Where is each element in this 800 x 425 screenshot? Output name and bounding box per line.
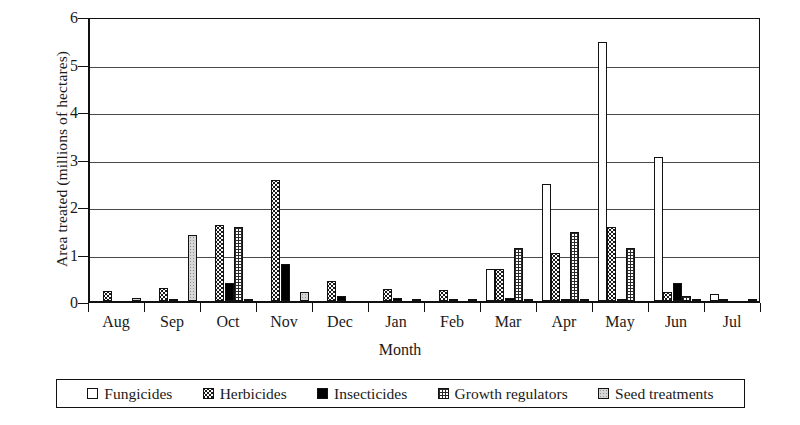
legend-item[interactable]: Insecticides [317, 386, 407, 402]
legend-item[interactable]: Fungicides [87, 386, 172, 402]
bar [337, 296, 346, 301]
bar [439, 290, 448, 301]
legend-swatch-icon [598, 388, 609, 399]
x-tick-mark [480, 303, 481, 312]
bar-series-container [90, 19, 759, 301]
bar-group [314, 19, 370, 301]
bar [468, 299, 477, 301]
bar [271, 180, 280, 301]
bar [570, 232, 579, 301]
bar [663, 292, 672, 302]
x-tick-label: May [590, 313, 650, 331]
bar [486, 269, 495, 301]
y-tick-label: 3 [38, 153, 78, 169]
x-tick-mark [424, 303, 425, 312]
bar [542, 184, 551, 301]
bar [281, 264, 290, 301]
bar [551, 253, 560, 301]
bar [524, 299, 533, 301]
legend-item[interactable]: Seed treatments [598, 386, 714, 402]
bar [495, 269, 504, 301]
y-tick-mark [78, 256, 88, 257]
chart-legend: FungicidesHerbicidesInsecticidesGrowth r… [56, 379, 745, 408]
bar [598, 42, 607, 301]
bar-group [426, 19, 482, 301]
bar [561, 299, 570, 301]
y-tick-mark [78, 18, 88, 19]
bar [215, 225, 224, 301]
x-tick-label: Oct [198, 313, 258, 331]
y-tick-label: 6 [38, 10, 78, 26]
bar [327, 281, 336, 301]
bar [692, 299, 701, 301]
x-tick-mark [144, 303, 145, 312]
bar-group [146, 19, 202, 301]
x-tick-label: Jun [646, 313, 706, 331]
bar [617, 299, 626, 301]
bar [188, 235, 197, 302]
x-tick-mark [200, 303, 201, 312]
bar-group [650, 19, 706, 301]
bar [159, 288, 168, 301]
bar [514, 248, 523, 301]
y-tick-label: 5 [38, 58, 78, 74]
x-tick-mark [648, 303, 649, 312]
x-axis-title: Month [0, 341, 800, 359]
x-tick-label: Aug [86, 313, 146, 331]
legend-label: Growth regulators [455, 386, 568, 402]
y-tick-mark [78, 161, 88, 162]
x-tick-label: Jan [366, 313, 426, 331]
bar-group [90, 19, 146, 301]
bar-group [258, 19, 314, 301]
bar [626, 248, 635, 301]
legend-swatch-icon [87, 388, 98, 399]
bar [719, 299, 728, 301]
legend-swatch-icon [317, 388, 328, 399]
y-tick-label: 0 [38, 295, 78, 311]
y-tick-mark [78, 303, 88, 304]
y-tick-mark [78, 66, 88, 67]
bar [505, 298, 514, 301]
bar [234, 227, 243, 301]
bar [383, 289, 392, 301]
bar [225, 283, 234, 301]
bar-group [538, 19, 594, 301]
bar [682, 296, 691, 301]
bar-group [706, 19, 762, 301]
bar [607, 227, 616, 301]
bar [103, 291, 112, 301]
bar [449, 299, 458, 301]
y-tick-mark [78, 113, 88, 114]
x-tick-label: Mar [478, 313, 538, 331]
x-tick-label: Feb [422, 313, 482, 331]
x-tick-label: Apr [534, 313, 594, 331]
x-tick-label: Nov [254, 313, 314, 331]
x-tick-mark [704, 303, 705, 312]
bar [244, 299, 253, 301]
legend-item[interactable]: Growth regulators [438, 386, 568, 402]
bar [748, 299, 757, 301]
legend-swatch-icon [203, 388, 214, 399]
x-tick-mark [368, 303, 369, 312]
x-tick-label: Sep [142, 313, 202, 331]
bar [132, 298, 141, 301]
y-tick-label: 2 [38, 200, 78, 216]
legend-label: Seed treatments [615, 386, 714, 402]
x-tick-mark [312, 303, 313, 312]
legend-label: Fungicides [104, 386, 172, 402]
x-tick-label: Dec [310, 313, 370, 331]
x-tick-mark [88, 303, 89, 312]
legend-label: Herbicides [220, 386, 287, 402]
bar [169, 299, 178, 301]
plot-area [88, 18, 760, 303]
bar-group [202, 19, 258, 301]
legend-swatch-icon [438, 388, 449, 399]
bar [673, 283, 682, 301]
bar-group [370, 19, 426, 301]
x-tick-label: Jul [702, 313, 762, 331]
bar [393, 298, 402, 301]
bar-group [482, 19, 538, 301]
x-tick-mark [592, 303, 593, 312]
pesticide-usage-bar-chart: Area treated (millions of hectares) 0123… [0, 0, 800, 425]
legend-item[interactable]: Herbicides [203, 386, 287, 402]
